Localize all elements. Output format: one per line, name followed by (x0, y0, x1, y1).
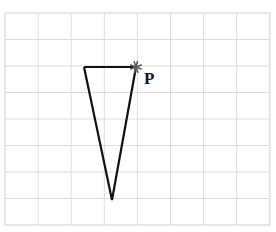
point-label-p: P (144, 70, 154, 87)
grid-figure-svg (0, 0, 276, 232)
canvas-background (0, 0, 276, 232)
figure-canvas: P (0, 0, 276, 232)
